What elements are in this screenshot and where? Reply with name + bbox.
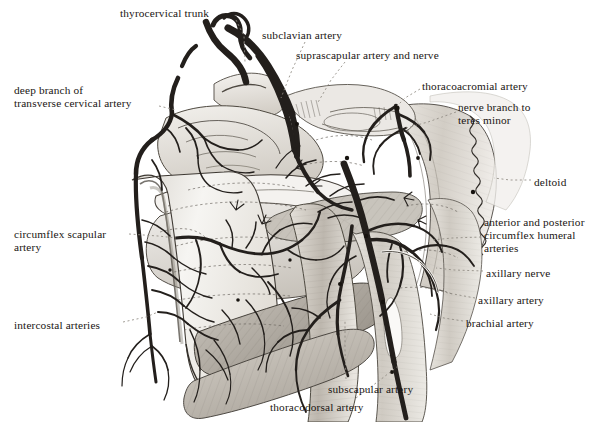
label-brachial-artery: brachial artery: [466, 317, 534, 330]
label-axillary-nerve: axillary nerve: [486, 267, 551, 280]
label-subclavian-artery: subclavian artery: [262, 29, 342, 42]
label-thoracoacromial-artery: thoracoacromial artery: [422, 80, 528, 93]
leader-intercostal-arteries: [123, 312, 158, 322]
label-deep-branch-transverse-cervical: deep branch of transverse cervical arter…: [14, 84, 131, 110]
label-intercostal-arteries: intercostal arteries: [14, 319, 100, 332]
label-thyrocervical-trunk: thyrocervical trunk: [120, 7, 209, 20]
anatomical-plate: thyrocervical trunksubclavian arterysupr…: [0, 0, 614, 422]
anatomy-illustration: [0, 0, 614, 422]
label-subscapular-artery: subscapular artery: [328, 383, 413, 396]
label-deltoid: deltoid: [534, 176, 566, 189]
label-axillary-artery: axillary artery: [478, 294, 544, 307]
label-suprascapular-artery-and-nerve: suprascapular artery and nerve: [296, 49, 439, 62]
label-thoracodorsal-artery: thoracodorsal artery: [270, 401, 364, 414]
label-nerve-branch-to-teres-minor: nerve branch to teres minor: [458, 101, 531, 127]
label-circumflex-humeral-arteries: anterior and posterior circumflex humera…: [484, 216, 585, 256]
label-circumflex-scapular-artery: circumflex scapular artery: [14, 228, 106, 254]
thyrocervical-trunk-vessel: [206, 14, 250, 83]
